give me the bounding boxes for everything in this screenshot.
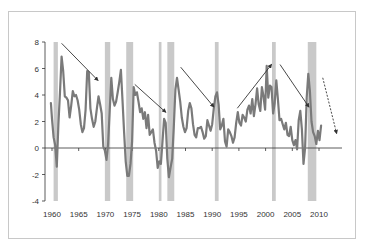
recession-band: [215, 42, 219, 201]
y-tick-label: 8: [35, 38, 40, 47]
y-tick-label: 4: [35, 91, 40, 100]
recession-band: [54, 42, 58, 201]
x-tick-label: 1965: [70, 210, 88, 219]
y-tick-label: -4: [32, 197, 40, 206]
x-tick-label: 2010: [310, 210, 328, 219]
recession-band: [159, 42, 162, 201]
x-tick-label: 1995: [230, 210, 248, 219]
dashed-trend-arrow: [323, 78, 337, 134]
trend-arrow: [280, 65, 309, 107]
trend-arrow: [62, 43, 98, 80]
y-tick-label: 0: [35, 144, 40, 153]
x-tick-label: 2000: [257, 210, 275, 219]
x-tick-label: 1970: [97, 210, 115, 219]
y-tick-label: 6: [35, 65, 40, 74]
trend-arrow: [181, 67, 214, 107]
recession-band: [272, 42, 276, 201]
x-tick-label: 1980: [150, 210, 168, 219]
y-tick-label: -2: [32, 171, 40, 180]
data-series: [51, 57, 321, 178]
line-chart: -4-2024681960196519701975198019851990199…: [0, 0, 370, 249]
x-tick-label: 1975: [123, 210, 141, 219]
x-tick-label: 2005: [283, 210, 301, 219]
series-line: [51, 57, 321, 178]
x-tick-label: 1990: [203, 210, 221, 219]
y-tick-label: 2: [35, 118, 40, 127]
x-tick-label: 1960: [43, 210, 61, 219]
x-tick-label: 1985: [177, 210, 195, 219]
